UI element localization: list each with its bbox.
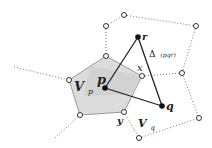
voronoi-diagram: r p q x y V p V q Δ (pqr) bbox=[0, 0, 212, 148]
label-x: x bbox=[137, 62, 143, 73]
label-p: p bbox=[97, 72, 106, 87]
site-r bbox=[135, 34, 141, 40]
label-y: y bbox=[116, 115, 124, 126]
label-r: r bbox=[142, 31, 148, 42]
site-q bbox=[159, 103, 165, 109]
label-vq: V q bbox=[138, 113, 156, 132]
label-q: q bbox=[166, 100, 174, 113]
label-triangle-pqr: Δ (pqr) bbox=[149, 43, 176, 60]
